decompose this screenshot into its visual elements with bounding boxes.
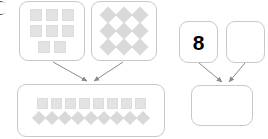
diamond-token (116, 7, 133, 24)
diamond-token (132, 39, 149, 56)
numeral-value (227, 22, 264, 62)
squares-token-grid (20, 2, 84, 60)
diagram-canvas: 8 (0, 0, 268, 139)
square-token (135, 98, 146, 109)
token-row (25, 41, 79, 53)
arrow-numeral-a-to-answer (199, 63, 222, 82)
diamonds-box[interactable] (91, 1, 157, 61)
combined-token-grid (18, 85, 164, 136)
answer-value (192, 86, 252, 125)
answer-box-empty[interactable] (191, 85, 253, 126)
square-token (62, 9, 74, 21)
arrow-diamonds-to-sum (94, 62, 123, 81)
square-token (46, 9, 58, 21)
arrow-squares-to-sum (53, 62, 87, 81)
diamond-token (132, 7, 149, 24)
square-token (46, 25, 58, 37)
diamond-token (116, 39, 133, 56)
token-row (97, 9, 151, 21)
token-row (23, 98, 159, 109)
square-token (121, 98, 132, 109)
bullet-dot-icon (0, 1, 7, 15)
numeral-value: 8 (180, 22, 217, 62)
square-token (79, 98, 90, 109)
token-row (97, 25, 151, 37)
combined-tokens-box[interactable] (17, 84, 165, 137)
token-row (23, 113, 159, 123)
token-row (97, 41, 151, 53)
square-token (62, 25, 74, 37)
arrow-numeral-b-to-answer (229, 63, 245, 82)
diamond-token (116, 23, 133, 40)
square-token (30, 9, 42, 21)
diamond-token (136, 111, 150, 125)
square-token (38, 41, 50, 53)
square-token (54, 41, 66, 53)
diamonds-token-grid (92, 2, 156, 60)
diamond-token (100, 7, 117, 24)
square-token (107, 98, 118, 109)
square-token (51, 98, 62, 109)
square-token (93, 98, 104, 109)
diamond-token (100, 39, 117, 56)
square-token (65, 98, 76, 109)
numeral-box-empty[interactable] (226, 21, 265, 63)
diamond-token (132, 23, 149, 40)
diamond-token (100, 23, 117, 40)
token-row (25, 25, 79, 37)
squares-box[interactable] (19, 1, 85, 61)
numeral-box-filled[interactable]: 8 (179, 21, 218, 63)
token-row (25, 9, 79, 21)
square-token (30, 25, 42, 37)
square-token (37, 98, 48, 109)
